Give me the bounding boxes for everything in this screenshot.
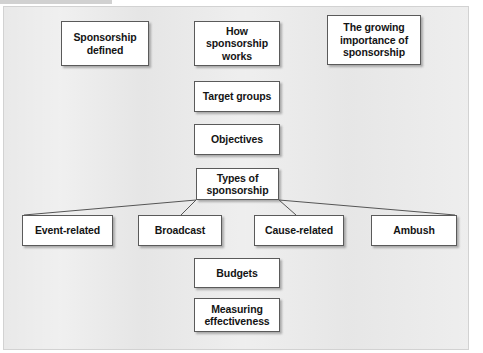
node-growing-importance[interactable]: The growing importance of sponsorship: [327, 15, 421, 65]
node-label: Objectives: [211, 133, 263, 146]
node-cause-related[interactable]: Cause-related: [254, 215, 344, 246]
node-label: Event-related: [35, 224, 100, 237]
node-objectives[interactable]: Objectives: [194, 124, 280, 155]
connector-types-of-sponsorship-to-broadcast: [181, 200, 196, 215]
node-budgets[interactable]: Budgets: [194, 258, 280, 288]
node-sponsorship-defined[interactable]: Sponsorship defined: [61, 21, 149, 66]
node-label: Broadcast: [155, 224, 205, 237]
node-label: How sponsorship works: [206, 25, 268, 63]
connector-types-of-sponsorship-to-event-related: [24, 200, 196, 215]
node-label: The growing importance of sponsorship: [340, 21, 408, 59]
node-label: Ambush: [393, 224, 434, 237]
node-types-of-sponsorship[interactable]: Types of sponsorship: [196, 168, 279, 200]
connector-types-of-sponsorship-to-cause-related: [279, 200, 296, 215]
node-broadcast[interactable]: Broadcast: [138, 215, 222, 246]
node-label: Sponsorship defined: [73, 31, 136, 56]
node-target-groups[interactable]: Target groups: [194, 81, 280, 112]
node-label: Target groups: [203, 90, 272, 103]
node-label: Types of sponsorship: [207, 172, 269, 197]
node-how-sponsorship-works[interactable]: How sponsorship works: [194, 21, 280, 66]
node-label: Cause-related: [265, 224, 333, 237]
slide-canvas: Sponsorship definedHow sponsorship works…: [0, 0, 483, 353]
node-ambush[interactable]: Ambush: [371, 215, 457, 246]
node-measuring-effectiveness[interactable]: Measuring effectiveness: [194, 298, 280, 332]
connector-types-of-sponsorship-to-ambush: [279, 200, 455, 215]
node-label: Budgets: [216, 267, 257, 280]
node-event-related[interactable]: Event-related: [22, 215, 113, 246]
node-label: Measuring effectiveness: [204, 303, 269, 328]
